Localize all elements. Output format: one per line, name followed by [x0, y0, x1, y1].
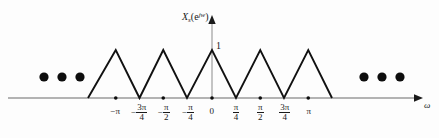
- x-tick-label-zero: 0: [210, 107, 215, 116]
- x-tick-label-pi-over-4: π4: [233, 103, 240, 123]
- y-axis-arrowhead: [208, 15, 215, 24]
- tick-fraction: π2: [257, 103, 264, 123]
- tick-fraction-denominator: 4: [233, 113, 240, 122]
- ellipsis-dot: [359, 72, 368, 81]
- ellipsis-dot: [57, 72, 66, 81]
- tick-value: π: [116, 106, 121, 116]
- x-tick-label-3pi-over-4: 3π4: [279, 103, 290, 123]
- y-axis-label: Xs(ejw): [182, 11, 209, 24]
- ellipsis-dot: [75, 72, 84, 81]
- tick-dot-neg-pi: [114, 96, 118, 100]
- plot-canvas: [0, 0, 439, 138]
- tick-fraction-denominator: 4: [279, 113, 290, 122]
- x-tick-label-neg-pi-over-2: −π2: [158, 103, 170, 123]
- tick-fraction-denominator: 2: [257, 113, 264, 122]
- spectrum-figure: Xs(ejw) 1 ω −π−3π4−π2−π40π4π23π4π: [0, 0, 439, 138]
- tick-fraction-denominator: 2: [163, 113, 170, 122]
- tick-fraction: π4: [187, 103, 194, 123]
- tick-fraction: π2: [163, 103, 170, 123]
- tick-value: 0: [210, 106, 215, 116]
- tick-fraction-denominator: 4: [187, 113, 194, 122]
- tick-value: π: [307, 106, 312, 116]
- x-tick-label-neg-3pi-over-4: −3π4: [131, 103, 148, 123]
- x-axis-arrowhead: [414, 94, 423, 102]
- tick-dot-pi-over-2: [258, 96, 262, 100]
- tick-fraction: 3π4: [279, 103, 290, 123]
- x-axis-label: ω: [424, 100, 430, 110]
- tick-fraction: 3π4: [136, 103, 147, 123]
- x-tick-label-neg-pi-over-4: −π4: [182, 103, 194, 123]
- tick-dot-zero: [210, 96, 214, 100]
- ellipsis-dot: [39, 72, 48, 81]
- tick-fraction-denominator: 4: [136, 113, 147, 122]
- tick-dot-pi: [306, 96, 310, 100]
- ellipsis-left: [39, 72, 84, 81]
- y-axis-label-close-paren: ): [205, 11, 208, 22]
- x-tick-label-pi: π: [307, 107, 312, 116]
- x-tick-label-pi-over-2: π2: [257, 103, 264, 123]
- tick-dot-neg-pi-over-2: [161, 96, 165, 100]
- tick-fraction: π4: [233, 103, 240, 123]
- ellipsis-right: [359, 72, 404, 81]
- triangular-waveform: [88, 50, 332, 98]
- amplitude-label: 1: [216, 40, 221, 51]
- x-tick-label-neg-pi: −π: [110, 107, 120, 116]
- ellipsis-dot: [377, 72, 386, 81]
- waveform-polyline: [88, 50, 332, 98]
- ellipsis-dot: [395, 72, 404, 81]
